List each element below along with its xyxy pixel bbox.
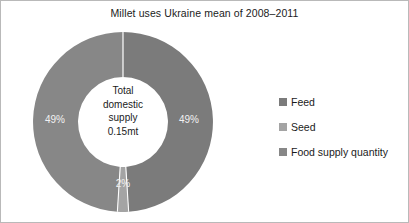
chart-figure: Millet uses Ukraine mean of 2008–2011 49… — [0, 0, 409, 223]
slice-label-seed: 2% — [101, 178, 145, 189]
legend-swatch-icon-feed — [279, 98, 287, 106]
legend-label-food-supply-quantity: Food supply quantity — [291, 146, 388, 158]
center-label-line-3: supply — [77, 111, 169, 125]
donut-chart: 49% 49% 2% Total domestic supply 0.15mt — [31, 30, 215, 214]
legend-swatch-icon-seed — [279, 123, 287, 131]
legend-label-seed: Seed — [291, 121, 316, 133]
legend-item-seed[interactable]: Seed — [279, 114, 405, 139]
center-label-line-2: domestic — [77, 98, 169, 112]
legend-label-feed: Feed — [291, 96, 315, 108]
legend-item-food-supply-quantity[interactable]: Food supply quantity — [279, 139, 405, 164]
legend-item-feed[interactable]: Feed — [279, 89, 405, 114]
slice-label-feed: 49% — [167, 114, 211, 125]
chart-legend: Feed Seed Food supply quantity — [279, 89, 405, 164]
chart-title: Millet uses Ukraine mean of 2008–2011 — [1, 7, 408, 19]
center-label-line-4: 0.15mt — [77, 125, 169, 139]
slice-label-food-supply-quantity: 49% — [33, 114, 77, 125]
legend-swatch-icon-food-supply-quantity — [279, 148, 287, 156]
donut-center-label: Total domestic supply 0.15mt — [77, 84, 169, 138]
center-label-line-1: Total — [77, 84, 169, 98]
